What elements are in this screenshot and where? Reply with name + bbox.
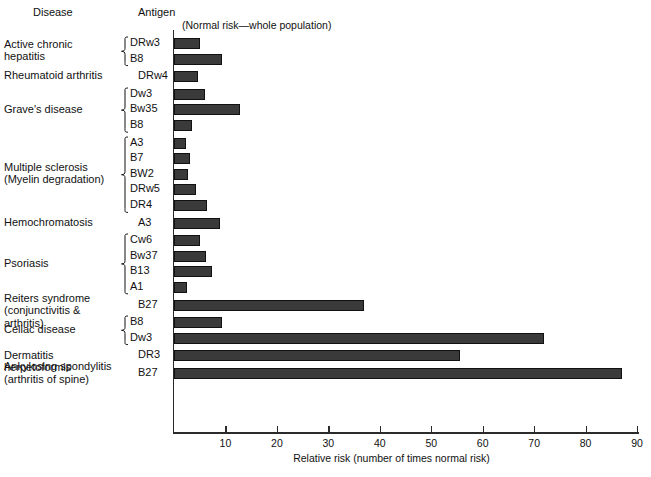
x-axis-tick — [586, 426, 587, 432]
bar — [174, 300, 364, 311]
bar — [174, 350, 460, 361]
antigen-label: A3 — [130, 136, 143, 148]
antigen-label: Bw37 — [130, 249, 158, 261]
bar — [174, 54, 222, 65]
x-axis-title: Relative risk (number of times normal ri… — [293, 452, 490, 464]
disease-label: Psoriasis — [4, 257, 120, 270]
antigen-label: B13 — [130, 264, 150, 276]
antigen-label: B8 — [130, 118, 143, 130]
bar — [174, 138, 186, 149]
disease-label: Celiac disease — [4, 323, 120, 336]
bar — [174, 184, 196, 195]
bar — [174, 333, 544, 344]
x-axis-tick-label: 90 — [631, 437, 643, 449]
bar — [174, 71, 198, 82]
group-brace — [120, 315, 130, 346]
antigen-label: B27 — [138, 366, 172, 378]
disease-label: Ankylosing spondylitis (arthritis of spi… — [4, 360, 120, 385]
antigen-label: Dw3 — [130, 331, 152, 343]
antigen-label: DRw3 — [130, 36, 160, 48]
x-axis-tick — [483, 426, 484, 432]
x-axis-tick-label: 20 — [271, 437, 283, 449]
bar — [174, 153, 190, 164]
x-axis-tick-label: 50 — [425, 437, 437, 449]
bar — [174, 104, 240, 115]
x-axis-title-wrap: Relative risk (number of times normal ri… — [0, 452, 651, 464]
disease-label: Multiple sclerosis (Myelin degradation) — [4, 161, 120, 186]
antigen-label: Cw6 — [130, 233, 152, 245]
x-axis-tick-label: 60 — [477, 437, 489, 449]
group-brace — [120, 233, 130, 295]
bar — [174, 317, 222, 328]
x-axis-tick — [225, 426, 226, 432]
bar — [174, 218, 220, 229]
x-axis-tick-label: 10 — [220, 437, 232, 449]
bar — [174, 266, 212, 277]
x-axis-line — [173, 432, 639, 434]
relative-risk-chart: Disease Antigen (Normal risk—whole popul… — [0, 0, 651, 477]
x-axis-tick — [534, 426, 535, 432]
antigen-label: A3 — [138, 216, 172, 228]
x-axis-tick-label: 80 — [580, 437, 592, 449]
antigen-label: BW2 — [130, 167, 154, 179]
bar — [174, 235, 200, 246]
antigen-label: DRw4 — [138, 69, 172, 81]
antigen-label: A1 — [130, 280, 143, 292]
x-axis-tick — [431, 426, 432, 432]
column-header-antigen: Antigen — [138, 6, 175, 18]
disease-label: Grave's disease — [4, 103, 120, 116]
column-header-disease: Disease — [33, 6, 73, 18]
antigen-label: B8 — [130, 315, 143, 327]
bar — [174, 120, 192, 131]
x-axis-tick-label: 30 — [323, 437, 335, 449]
x-axis-tick — [277, 426, 278, 432]
antigen-label: B7 — [130, 151, 143, 163]
x-axis-tick — [328, 426, 329, 432]
bar — [174, 282, 187, 293]
antigen-label: Dw3 — [130, 87, 152, 99]
antigen-label: DRw5 — [130, 182, 160, 194]
antigen-label: DR3 — [138, 348, 172, 360]
x-axis-tick — [380, 426, 381, 432]
normal-risk-note: (Normal risk—whole population) — [182, 19, 331, 31]
bar — [174, 169, 188, 180]
antigen-label: DR4 — [130, 198, 152, 210]
disease-label: Active chronic hepatitis — [4, 38, 120, 63]
group-brace — [120, 36, 130, 67]
x-axis-tick-label: 40 — [374, 437, 386, 449]
x-axis-tick-label: 70 — [528, 437, 540, 449]
bar — [174, 251, 206, 262]
bar — [174, 38, 200, 49]
antigen-label: B8 — [130, 52, 143, 64]
group-brace — [120, 136, 130, 213]
antigen-label: B27 — [138, 298, 172, 310]
bar — [174, 368, 622, 379]
bar — [174, 200, 207, 211]
bar — [174, 89, 205, 100]
disease-label: Rheumatoid arthritis — [4, 69, 120, 82]
antigen-label: Bw35 — [130, 102, 158, 114]
disease-label: Hemochromatosis — [4, 216, 120, 229]
x-axis-tick — [637, 426, 638, 432]
group-brace — [120, 87, 130, 133]
